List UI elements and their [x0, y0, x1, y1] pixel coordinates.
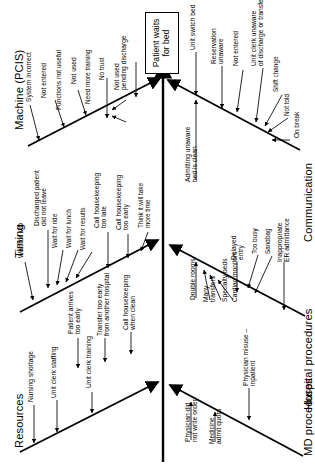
- cause-timing-wait-for-ride: Wait for ride: [52, 214, 59, 248]
- cause-machine-system-incorrect: System incorrect: [26, 52, 33, 102]
- cause-communication-shift-change: Shift change: [273, 56, 280, 92]
- cause-hospital-too-busy: Too busy: [252, 228, 259, 254]
- fishbone-diagram: Patient waitsfor bed Machine (PCIS) Timi…: [0, 0, 315, 464]
- cause-communication-admitting-unaware: Admitting unawarebed is clean: [185, 127, 198, 182]
- cause-resources-call-housekeeping-when-clean: Call housekeepingwhen clean: [123, 275, 136, 330]
- cause-machine-need-more-training: Need more training: [85, 50, 92, 104]
- cause-communication-reservation-unaware: Reservationunaware: [211, 28, 224, 64]
- branch-resources: [20, 382, 158, 452]
- cause-communication-on-break: On break: [294, 112, 301, 138]
- cause-md-medicine-admit-quota: Medicineadmit quota: [209, 409, 222, 444]
- cause-timing-wait-for-md: Wait for MD: [18, 223, 25, 258]
- cause-hospital-double-rooms: Double rooms: [190, 258, 197, 300]
- cause-timing-discharged-patient: Discharged patientdid not leave: [34, 170, 47, 226]
- branch-timing: [20, 240, 158, 312]
- cause-timing-think-it-will-take-more-time: Think it will takemore time: [138, 183, 151, 228]
- cause-machine-not-entered: Not entered: [41, 63, 48, 98]
- cause-machine-not-used: Not used: [71, 57, 78, 84]
- cause-hospital-inappropriate-er-admittance: InappropriateER admittance: [277, 218, 290, 262]
- resources-cause-arrows: [34, 332, 131, 443]
- cause-machine-functions-not-useful: Functions not useful: [56, 50, 63, 110]
- cause-timing-wait-for-lunch: Wait for lunch: [66, 209, 73, 248]
- cause-hospital-delayed-entry: Delayedentry: [231, 235, 244, 260]
- cause-resources-transfer-too-early: Transfer too earlyfrom another hospital: [97, 273, 110, 336]
- cause-timing-call-housekeeping-too-early: Call housekeepingtoo early: [116, 175, 129, 230]
- effect-box: Patient waitsfor bed: [145, 12, 179, 74]
- branch-machine: [28, 78, 160, 146]
- cause-md-physician-did-not-write-order: Physician didnot write order: [185, 399, 198, 442]
- effect-label: Patient waitsfor bed: [152, 19, 171, 68]
- category-label-resources: Resources: [14, 394, 25, 448]
- cause-communication-not-entered: Not entered: [233, 31, 240, 66]
- cause-communication-unit-switch-bed: Unit switch bed: [190, 5, 197, 50]
- cause-resources-nursing-shortage: Nursing shortage: [28, 351, 35, 402]
- cause-md-physician-misuse-inpatient: Physician misuse –inpatient: [243, 329, 256, 386]
- cause-hospital-sandbag: Sandbag: [265, 228, 272, 254]
- cause-communication-not-told: Not told: [284, 94, 291, 116]
- cause-hospital-many-transfers: Manytransfers: [203, 276, 216, 302]
- category-label-communication: Communication: [303, 163, 314, 242]
- cause-machine-not-used-pending: Not usedpending discharge: [114, 35, 127, 90]
- cause-resources-unit-clerk-staffing: Unit clerk staffing: [51, 347, 58, 398]
- cause-hospital-specialty-beds: Specialty beds: [222, 258, 229, 302]
- cause-timing-call-housekeeping-too-late: Call housekeepingtoo late: [94, 173, 107, 228]
- cause-resources-unit-clerk-training: Unit clerk training: [86, 336, 93, 388]
- category-label-machine: Machine (PCIS): [14, 50, 25, 130]
- category-label-md-procedures: MD procedures: [303, 378, 314, 456]
- cause-machine-no-trust: No trust: [99, 58, 106, 80]
- cause-communication-unit-clerk-unaware: Unit clerk unawareof discharge or transf…: [251, 0, 264, 66]
- cause-timing-wait-for-results: Wait for results: [80, 208, 87, 250]
- cause-resources-patient-arrives-too-early: Patient arrivestoo early: [68, 291, 81, 334]
